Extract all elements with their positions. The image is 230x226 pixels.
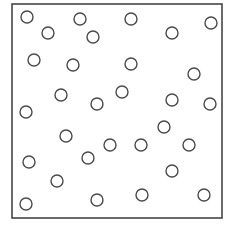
dot-diagram	[0, 0, 230, 226]
circle	[42, 27, 54, 39]
circle	[23, 156, 35, 168]
circle	[166, 165, 178, 177]
circle	[82, 152, 94, 164]
circle	[116, 86, 128, 98]
circle	[20, 198, 32, 210]
circle	[20, 106, 32, 118]
circle	[125, 13, 137, 25]
circle	[74, 13, 86, 25]
circle	[205, 17, 217, 29]
circle	[91, 194, 103, 206]
circle	[87, 31, 99, 43]
circle	[91, 98, 103, 110]
circle	[67, 59, 79, 71]
circle	[28, 54, 40, 66]
circle	[104, 139, 116, 151]
circle	[51, 175, 63, 187]
circle	[136, 189, 148, 201]
circle	[166, 94, 178, 106]
circle	[55, 89, 67, 101]
circle	[198, 189, 210, 201]
circle	[135, 139, 147, 151]
circle	[21, 11, 33, 23]
circle	[188, 68, 200, 80]
circle	[204, 98, 216, 110]
circle	[125, 58, 137, 70]
circle	[183, 139, 195, 151]
circle	[60, 130, 72, 142]
circle	[166, 27, 178, 39]
background	[0, 0, 230, 226]
circle	[158, 121, 170, 133]
